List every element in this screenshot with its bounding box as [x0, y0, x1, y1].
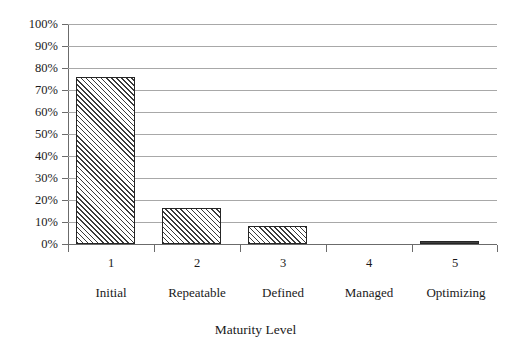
gridline [68, 68, 497, 69]
y-axis-tick-label: 60% [6, 106, 58, 118]
gridline [68, 46, 497, 47]
x-tick-mark [68, 245, 69, 252]
x-axis-title: Maturity Level [0, 322, 511, 338]
x-axis-baseline [68, 244, 497, 245]
plot-area [68, 24, 497, 244]
x-tick-mark [240, 245, 241, 252]
y-axis-tick-label: 30% [6, 172, 58, 184]
bar-optimizing[interactable] [420, 241, 479, 244]
x-tick-mark [154, 245, 155, 252]
x-tick-mark [497, 245, 498, 252]
x-tick-mark [412, 245, 413, 252]
bar-initial[interactable] [76, 77, 135, 244]
y-axis-tick-label: 100% [6, 18, 58, 30]
y-axis-tick-label: 10% [6, 216, 58, 228]
x-category-label-4: 4 [326, 256, 412, 270]
x-tick-mark [326, 245, 327, 252]
x-name-label-optimizing: Optimizing [404, 285, 508, 300]
x-category-label-3: 3 [240, 256, 326, 270]
bar-defined[interactable] [248, 226, 307, 244]
y-axis-tick-label: 70% [6, 84, 58, 96]
bar-repeatable[interactable] [162, 208, 221, 244]
y-axis-tick-label: 80% [6, 62, 58, 74]
y-axis-tick-label: 90% [6, 40, 58, 52]
y-axis-tick-label: 20% [6, 194, 58, 206]
x-category-label-5: 5 [412, 256, 498, 270]
x-category-label-1: 1 [68, 256, 154, 270]
y-axis-tick-label: 50% [6, 128, 58, 140]
bar-chart: 100% 90% 80% 70% 60% 50% 40% 30% 20% 10%… [0, 0, 511, 357]
x-category-label-2: 2 [154, 256, 240, 270]
gridline [68, 24, 497, 25]
y-axis-tick-label: 40% [6, 150, 58, 162]
y-axis-tick-label: 0% [6, 238, 58, 250]
